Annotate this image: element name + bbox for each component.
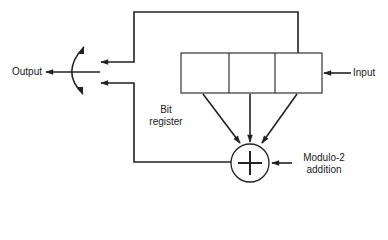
bit-register xyxy=(181,53,322,93)
tap-arrow-1 xyxy=(203,94,240,143)
output-label: Output xyxy=(12,66,42,78)
commutator-switch-arc xyxy=(72,47,84,94)
modulo-2-adder xyxy=(231,144,269,182)
adder-label-line2: addition xyxy=(297,164,351,176)
tap-arrow-3 xyxy=(262,94,297,143)
register-label-line2: register xyxy=(146,116,186,128)
register-label-line1: Bit xyxy=(146,104,186,116)
input-label: Input xyxy=(353,67,375,79)
adder-label-line1: Modulo-2 xyxy=(297,152,351,164)
